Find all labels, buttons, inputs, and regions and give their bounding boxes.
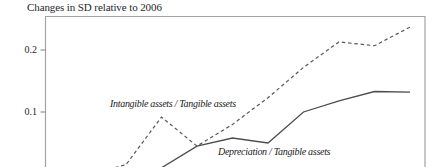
series-label-intangible-assets: Intangible assets / Tangible assets: [110, 98, 236, 109]
chart-figure: Changes in SD relative to 2006 0.2 0.1 I…: [0, 0, 439, 167]
line-chart-plot-area: [0, 0, 439, 167]
plot-frame: [46, 17, 426, 168]
series-label-depreciation: Depreciation / Tangible assets: [218, 146, 330, 157]
y-axis-tick-label-0.2: 0.2: [14, 43, 37, 56]
y-axis-tick-label-0.1: 0.1: [14, 105, 37, 118]
